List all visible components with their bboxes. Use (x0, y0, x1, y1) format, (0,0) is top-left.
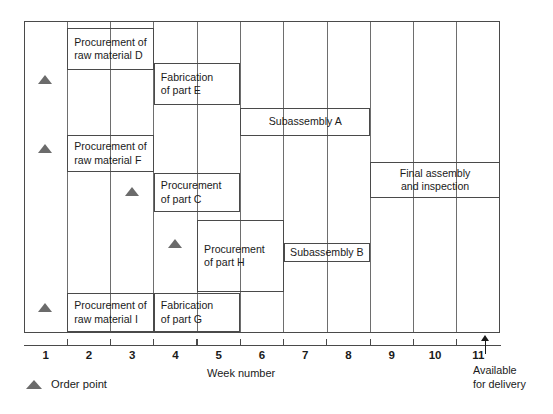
task-label-subassembly-a-line-1: Subassembly A (269, 115, 342, 128)
legend: Order point (26, 378, 107, 390)
delivery-label-line-1: Available (473, 364, 526, 378)
task-label-proc-part-c-line-1: Procurement (161, 179, 236, 192)
x-tick-10 (413, 339, 414, 346)
task-bar-final-assembly-and-inspection: Final assemblyand inspection (370, 162, 500, 198)
task-label-proc-part-h-line-2: of part H (204, 256, 279, 269)
task-label-proc-raw-material-d-line-1: Procurement of (74, 36, 149, 49)
task-label-proc-raw-material-d-line-2: raw material D (74, 49, 149, 62)
task-bar-subassembly-a: Subassembly A (240, 108, 370, 136)
task-label-proc-part-c-line-2: of part C (161, 193, 236, 206)
legend-label-order-point: Order point (51, 378, 107, 390)
task-bar-proc-part-h: Procurementof part H (197, 220, 284, 292)
x-tick-label-1: 1 (24, 349, 68, 361)
task-label-fabrication-part-g-line-1: Fabrication (161, 299, 236, 312)
x-tick-label-3: 3 (110, 349, 154, 361)
task-label-fabrication-part-g-line-2: of part G (161, 313, 236, 326)
x-tick-label-6: 6 (240, 349, 284, 361)
task-bar-proc-raw-material-f: Procurement ofraw material F (67, 135, 154, 172)
task-bar-fabrication-part-g: Fabricationof part G (154, 293, 241, 332)
x-tick-7 (283, 339, 284, 346)
x-tick-8 (326, 339, 327, 346)
task-label-fabrication-part-e-line-2: of part E (161, 84, 236, 97)
x-tick-label-11: 11 (456, 349, 500, 361)
x-tick-5 (196, 339, 197, 346)
task-label-proc-raw-material-f-line-2: raw material F (74, 154, 149, 167)
task-label-proc-part-h-line-1: Procurement (204, 243, 279, 256)
task-label-fabrication-part-e-line-1: Fabrication (161, 71, 236, 84)
task-label-proc-raw-material-f-line-1: Procurement of (74, 140, 149, 153)
x-axis-line (24, 345, 501, 346)
x-tick-label-10: 10 (413, 349, 457, 361)
x-tick-label-4: 4 (153, 349, 197, 361)
x-tick-label-5: 5 (197, 349, 241, 361)
x-tick-11 (456, 339, 457, 346)
order-point-marker-proc-raw-material-f (38, 144, 52, 153)
task-bar-fabrication-part-e: Fabricationof part E (154, 63, 241, 105)
order-point-marker-proc-raw-material-d (38, 75, 52, 84)
x-tick-6 (240, 339, 241, 346)
delivery-label-line-2: for delivery (473, 378, 526, 392)
gridline-week-8 (327, 22, 328, 332)
order-point-marker-proc-part-h (168, 239, 182, 248)
gantt-chart: Procurement ofraw material DFabricationo… (0, 0, 553, 414)
task-label-subassembly-b-line-1: Subassembly B (290, 246, 364, 259)
x-tick-label-8: 8 (327, 349, 371, 361)
x-tick-label-7: 7 (283, 349, 327, 361)
task-bar-proc-raw-material-i: Procurement ofraw material I (67, 293, 154, 332)
available-for-delivery-arrow-shaft (485, 340, 487, 354)
x-tick-label-9: 9 (370, 349, 414, 361)
task-label-final-assembly-and-inspection-line-1: Final assembly (400, 167, 471, 180)
x-tick-2 (67, 339, 68, 346)
x-tick-4 (153, 339, 154, 346)
task-label-final-assembly-and-inspection-line-2: and inspection (401, 180, 469, 193)
task-bar-proc-raw-material-d: Procurement ofraw material D (67, 28, 154, 70)
available-for-delivery-label: Available for delivery (473, 364, 526, 391)
task-label-proc-raw-material-i-line-2: raw material I (74, 313, 149, 326)
x-tick-3 (110, 339, 111, 346)
order-point-marker-proc-part-c (125, 187, 139, 196)
task-bar-proc-part-c: Procurementof part C (154, 173, 241, 212)
task-label-proc-raw-material-i-line-1: Procurement of (74, 299, 149, 312)
x-axis-title: Week number (207, 367, 275, 379)
task-bar-subassembly-b: Subassembly B (284, 243, 371, 262)
x-tick-label-2: 2 (67, 349, 111, 361)
x-tick-9 (370, 339, 371, 346)
order-point-marker-proc-raw-material-i (38, 303, 52, 312)
order-point-triangle-icon (26, 380, 42, 389)
